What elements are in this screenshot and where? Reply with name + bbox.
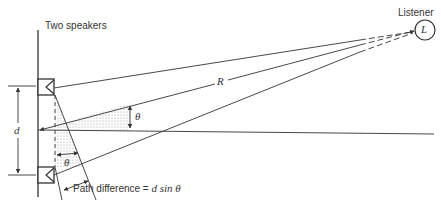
path-difference-text: Path difference = (73, 183, 151, 194)
angle-bottom-label: θ (64, 157, 69, 168)
path-difference-label: Path difference = d sin θ (73, 183, 181, 194)
separation-label: d (14, 125, 20, 136)
distance-label: R (217, 76, 224, 87)
ray-upper-speaker (54, 40, 360, 88)
horizontal-axis (38, 130, 434, 134)
two-speakers-label: Two speakers (45, 21, 107, 31)
path-difference-formula: d sin θ (151, 182, 180, 194)
ray-lower-speaker-dashed (360, 33, 413, 52)
listener-label: Listener (398, 8, 434, 18)
upper-speaker-icon (38, 79, 54, 95)
listener-symbol: L (421, 24, 427, 35)
angle-right-label: θ (135, 111, 140, 122)
ray-center-dashed (360, 31, 414, 45)
lower-speaker-icon (38, 167, 54, 183)
